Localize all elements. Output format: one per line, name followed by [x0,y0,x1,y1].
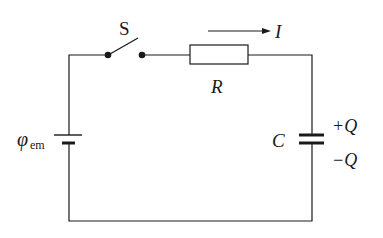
capacitor [299,135,324,143]
switch-contact-right [139,52,146,59]
battery-label-subscript: em [30,138,45,152]
battery-label: φ [17,128,28,151]
wire-left-top [69,55,108,135]
switch-contact-left [105,52,112,59]
switch-lever [110,38,138,54]
switch-label: S [119,18,130,39]
capacitor-minus-label: −Q [332,150,357,170]
resistor [190,45,248,64]
current-arrow-head [262,28,271,34]
circuit-diagram: S I R φ em C +Q −Q [0,0,383,238]
battery [54,135,82,143]
capacitor-label: C [272,130,285,151]
wire-right-bottom [69,143,312,221]
capacitor-plus-label: +Q [332,116,357,136]
resistor-label: R [210,76,223,97]
wire-resistor-right [248,55,312,135]
current-label: I [274,21,283,42]
